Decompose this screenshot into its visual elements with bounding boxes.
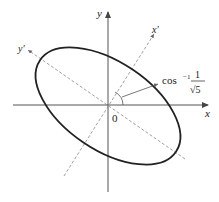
annotation-arrow [122, 84, 158, 97]
ellipse-diagram: y x x′ y′ 0 cos −1 1 √5 [0, 0, 219, 202]
y-prime-axis-label: y′ [17, 43, 25, 54]
svg-text:cos: cos [162, 74, 177, 86]
x-axis-label: x [204, 107, 210, 119]
x-prime-axis-label: x′ [151, 24, 159, 35]
y-axis-label: y [96, 7, 102, 19]
angle-annotation: cos −1 1 √5 [162, 69, 205, 95]
svg-text:1: 1 [195, 69, 200, 80]
origin-label: 0 [112, 112, 118, 124]
svg-text:√5: √5 [190, 84, 201, 95]
svg-text:−1: −1 [183, 73, 191, 81]
